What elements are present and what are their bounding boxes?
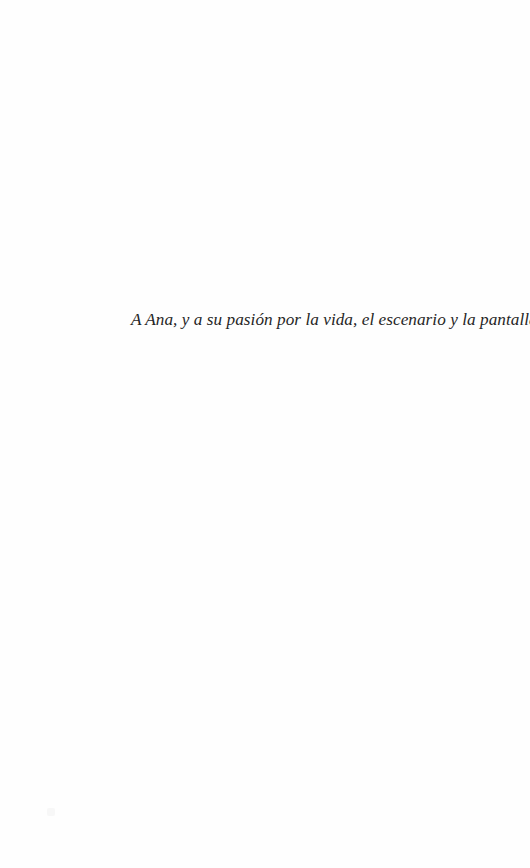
dedication-text: A Ana, y a su pasión por la vida, el esc… [131, 309, 461, 331]
book-page: A Ana, y a su pasión por la vida, el esc… [0, 0, 530, 868]
scan-artifact [47, 808, 55, 816]
